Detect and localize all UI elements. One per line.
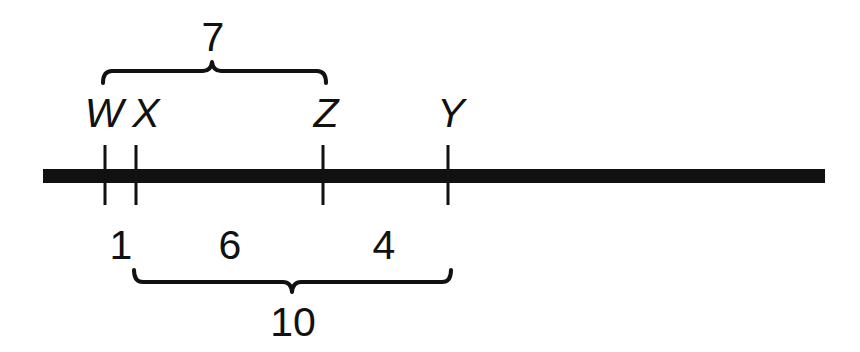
bottom-brace (134, 270, 451, 292)
point-label-y: Y (437, 93, 464, 134)
point-label-z: Z (313, 93, 338, 134)
bottom-brace-label: 10 (270, 302, 316, 343)
point-label-w: W (85, 93, 124, 134)
point-label-x: X (132, 93, 159, 134)
segment-length-zy: 4 (373, 225, 396, 266)
number-line (43, 169, 825, 183)
diagram-graphics (0, 0, 860, 352)
top-brace (103, 62, 326, 83)
top-brace-label: 7 (202, 17, 225, 58)
segment-length-xz: 6 (219, 225, 242, 266)
segment-length-wx: 1 (110, 225, 133, 266)
number-line-diagram: W X Z Y 7 10 1 6 4 (0, 0, 860, 352)
